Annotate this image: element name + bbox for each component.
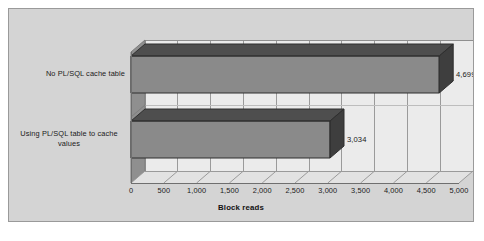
chart-frame: No PL/SQL cache table Using PL/SQL table…	[8, 8, 474, 222]
category-label-no-plsql-cache-table: No PL/SQL cache table	[13, 69, 125, 79]
xtick-label-5000: 5,000	[447, 186, 471, 195]
x-axis-title: Block reads	[9, 203, 473, 212]
xtick-label-4000: 4,000	[381, 186, 405, 195]
xtick-label-2500: 2,500	[283, 186, 307, 195]
xtick-label-500: 500	[152, 186, 176, 195]
chart-page: No PL/SQL cache table Using PL/SQL table…	[0, 0, 484, 241]
category-label-using-plsql-table-line1: Using PL/SQL table to cache	[13, 129, 125, 139]
bar-no-plsql-cache-table[interactable]	[131, 44, 453, 93]
xtick-label-3500: 3,500	[349, 186, 373, 195]
xtick-label-3000: 3,000	[316, 186, 340, 195]
xtick-label-0: 0	[119, 186, 143, 195]
xtick-label-1000: 1,000	[185, 186, 209, 195]
value-label-no-plsql-cache-table: 4,699	[456, 70, 474, 79]
xtick-label-4500: 4,500	[414, 186, 438, 195]
xtick-label-1500: 1,500	[217, 186, 241, 195]
category-label-using-plsql-table-line2: values	[13, 139, 125, 149]
bar-using-plsql-table-to-cache-values[interactable]	[131, 109, 344, 158]
plot-floor	[131, 171, 473, 183]
value-label-using-plsql-table-to-cache-values: 3,034	[347, 135, 367, 144]
xtick-label-2000: 2,000	[250, 186, 274, 195]
